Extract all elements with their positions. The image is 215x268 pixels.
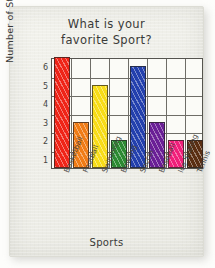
gridline-horizontal	[52, 78, 202, 79]
bar-basketball	[54, 57, 70, 168]
screenshot-root: What is your favorite Sport? Number of S…	[0, 0, 215, 268]
paper-sheet: What is your favorite Sport? Number of S…	[9, 6, 204, 257]
gridline-horizontal	[52, 96, 202, 97]
y-tick-label: 6	[43, 64, 48, 72]
y-tick-label: 3	[43, 120, 48, 128]
chart-title-line-2: favorite Sport?	[10, 33, 203, 49]
chart-title-line-1: What is your	[10, 17, 203, 33]
y-axis-label: Number of Students	[4, 0, 15, 63]
x-axis-label: Sports	[10, 237, 203, 248]
chart-title: What is your favorite Sport?	[10, 17, 203, 48]
y-tick-label: 5	[43, 83, 48, 91]
y-tick-label: 1	[43, 157, 48, 165]
plot-area: 123456 BasketballFootballSwimmingBowling…	[51, 58, 203, 169]
gridline-horizontal	[52, 115, 202, 116]
y-tick-label: 4	[43, 101, 48, 109]
y-tick-label: 2	[43, 138, 48, 146]
